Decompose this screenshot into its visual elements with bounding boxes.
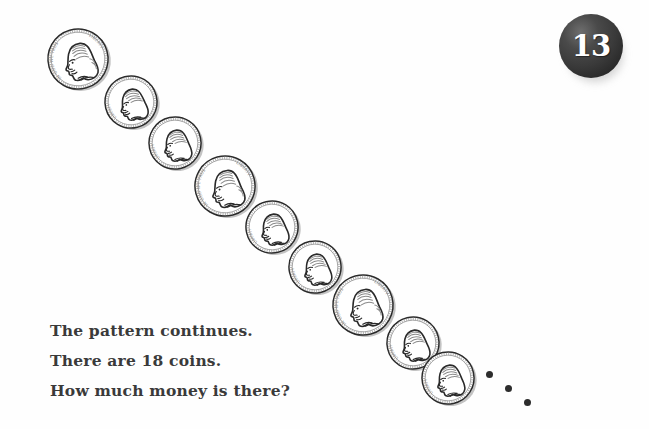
badge-circle: 13 (559, 14, 623, 78)
question-line-1: The pattern continues. (50, 316, 380, 346)
ellipsis-dot-3 (524, 399, 531, 406)
question-line-2: There are 18 coins. (50, 346, 380, 376)
coin-dime-9: LIBERTY (412, 342, 483, 413)
question-text-block: The pattern continues. There are 18 coin… (50, 316, 380, 406)
badge-number-label: 13 (572, 32, 610, 61)
worksheet-page: IN GOD WE TRUSTLIBERTYLIBERTYLIBERTYIN G… (0, 0, 649, 429)
ellipsis-dot-2 (505, 385, 512, 392)
problem-number-badge: 13 (559, 14, 627, 82)
ellipsis-dot-1 (486, 371, 493, 378)
question-line-3: How much money is there? (50, 376, 380, 406)
